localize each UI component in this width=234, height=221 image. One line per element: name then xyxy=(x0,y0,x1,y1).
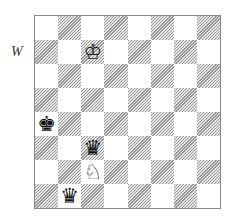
square-e6[interactable] xyxy=(128,64,151,88)
square-e2[interactable] xyxy=(128,160,151,184)
square-d2[interactable] xyxy=(104,160,127,184)
square-d6[interactable] xyxy=(104,64,127,88)
square-e5[interactable] xyxy=(128,88,151,112)
square-c4[interactable] xyxy=(81,112,104,136)
side-to-move-label: W xyxy=(11,44,23,60)
square-a3[interactable] xyxy=(35,136,58,160)
square-b6[interactable] xyxy=(58,64,81,88)
square-h2[interactable] xyxy=(197,160,220,184)
square-b2[interactable] xyxy=(58,160,81,184)
square-b3[interactable] xyxy=(58,136,81,160)
square-d5[interactable] xyxy=(104,88,127,112)
black-queen-icon[interactable]: ♛ xyxy=(83,138,102,159)
chess-board: ♔♚♛♘♛ xyxy=(34,15,221,209)
square-g5[interactable] xyxy=(174,88,197,112)
square-h8[interactable] xyxy=(197,16,220,40)
square-g6[interactable] xyxy=(174,64,197,88)
square-g3[interactable] xyxy=(174,136,197,160)
white-king-icon[interactable]: ♔ xyxy=(83,42,102,63)
square-d1[interactable] xyxy=(104,184,127,208)
square-c5[interactable] xyxy=(81,88,104,112)
square-c1[interactable] xyxy=(81,184,104,208)
square-h7[interactable] xyxy=(197,40,220,64)
square-g4[interactable] xyxy=(174,112,197,136)
square-g7[interactable] xyxy=(174,40,197,64)
white-knight-icon[interactable]: ♘ xyxy=(83,162,102,183)
square-g8[interactable] xyxy=(174,16,197,40)
square-h5[interactable] xyxy=(197,88,220,112)
square-f4[interactable] xyxy=(151,112,174,136)
square-a8[interactable] xyxy=(35,16,58,40)
black-queen-icon[interactable]: ♛ xyxy=(60,186,79,207)
square-a7[interactable] xyxy=(35,40,58,64)
square-f7[interactable] xyxy=(151,40,174,64)
square-c6[interactable] xyxy=(81,64,104,88)
square-b5[interactable] xyxy=(58,88,81,112)
square-c7[interactable]: ♔ xyxy=(81,40,104,64)
square-c3[interactable]: ♛ xyxy=(81,136,104,160)
square-h3[interactable] xyxy=(197,136,220,160)
square-g2[interactable] xyxy=(174,160,197,184)
square-f8[interactable] xyxy=(151,16,174,40)
square-e8[interactable] xyxy=(128,16,151,40)
square-c2[interactable]: ♘ xyxy=(81,160,104,184)
square-f3[interactable] xyxy=(151,136,174,160)
square-e4[interactable] xyxy=(128,112,151,136)
square-e3[interactable] xyxy=(128,136,151,160)
square-f6[interactable] xyxy=(151,64,174,88)
square-f1[interactable] xyxy=(151,184,174,208)
square-h1[interactable] xyxy=(197,184,220,208)
square-b7[interactable] xyxy=(58,40,81,64)
square-h4[interactable] xyxy=(197,112,220,136)
square-a6[interactable] xyxy=(35,64,58,88)
square-a1[interactable] xyxy=(35,184,58,208)
square-d4[interactable] xyxy=(104,112,127,136)
square-b4[interactable] xyxy=(58,112,81,136)
square-e1[interactable] xyxy=(128,184,151,208)
square-a5[interactable] xyxy=(35,88,58,112)
square-b1[interactable]: ♛ xyxy=(58,184,81,208)
square-d3[interactable] xyxy=(104,136,127,160)
square-a2[interactable] xyxy=(35,160,58,184)
square-h6[interactable] xyxy=(197,64,220,88)
square-a4[interactable]: ♚ xyxy=(35,112,58,136)
square-f5[interactable] xyxy=(151,88,174,112)
square-d8[interactable] xyxy=(104,16,127,40)
square-f2[interactable] xyxy=(151,160,174,184)
square-g1[interactable] xyxy=(174,184,197,208)
square-b8[interactable] xyxy=(58,16,81,40)
black-king-icon[interactable]: ♚ xyxy=(37,114,56,135)
square-c8[interactable] xyxy=(81,16,104,40)
square-e7[interactable] xyxy=(128,40,151,64)
square-d7[interactable] xyxy=(104,40,127,64)
